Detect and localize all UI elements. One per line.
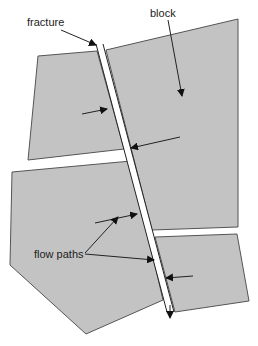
fracture-block-diagram: fracture block flow paths — [0, 0, 258, 346]
fracture-pointer-icon — [61, 30, 96, 45]
block-label: block — [150, 7, 176, 19]
fracture-label: fracture — [27, 16, 64, 28]
flow-paths-label: flow paths — [34, 248, 84, 260]
